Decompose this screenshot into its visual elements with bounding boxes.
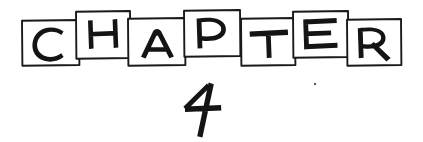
letter-tile-h — [76, 11, 130, 59]
chapter-heading-page: CHAPTER 4 — [0, 0, 423, 142]
letter-tile-a — [128, 18, 185, 66]
letter-tile-p — [184, 10, 240, 57]
letter-box-p — [184, 10, 240, 57]
letter-tile-e — [293, 11, 348, 58]
letter-tile-c — [22, 20, 79, 66]
chapter-heading-artwork — [0, 0, 423, 142]
letter-tile-t — [241, 18, 295, 66]
stray-speck-mark — [314, 83, 316, 85]
letter-box-a — [128, 18, 185, 66]
letter-tile-r — [347, 19, 401, 66]
